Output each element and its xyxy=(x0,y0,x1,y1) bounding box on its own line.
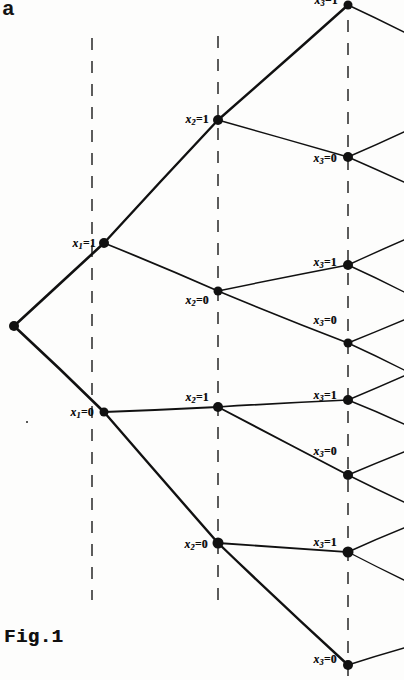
decision-tree-graphic xyxy=(0,0,404,680)
node-label-n-x3-010: x3=0 xyxy=(314,445,337,460)
leaf-stub xyxy=(348,528,404,552)
leaf-stub xyxy=(348,343,404,370)
tree-edge xyxy=(104,412,218,543)
tree-node-n-x3-111 xyxy=(344,1,353,10)
node-label-n-x2-01: x2=1 xyxy=(186,391,209,406)
tree-node-n-x2-00 xyxy=(213,538,224,549)
tree-edge xyxy=(104,243,218,291)
node-label-n-x1-0: x1=0 xyxy=(71,406,94,421)
tree-edge xyxy=(14,243,104,326)
tree-node-n-x3-011 xyxy=(343,395,353,405)
tree-node-n-x3-000 xyxy=(343,660,353,670)
node-label-n-x3-001: x3=1 xyxy=(314,536,337,551)
node-label-n-x3-101: x3=1 xyxy=(314,256,337,271)
tree-node-n-x3-001 xyxy=(343,547,354,558)
node-label-n-x1-1: x1=1 xyxy=(73,237,96,252)
leaf-stub xyxy=(348,475,404,502)
tree-node-n-x3-110 xyxy=(343,152,353,162)
node-label-n-x3-011: x3=1 xyxy=(314,389,337,404)
node-label-n-x3-111: x3=1 xyxy=(315,0,338,8)
leaf-stub xyxy=(348,265,404,292)
node-label-n-x3-110: x3=0 xyxy=(314,152,337,167)
tree-node-n-x3-101 xyxy=(343,260,353,270)
tree-edge xyxy=(218,543,348,665)
tree-nodes-group xyxy=(9,1,354,671)
leaf-stub xyxy=(348,648,404,665)
node-label-n-x2-11: x2=1 xyxy=(186,113,209,128)
leaf-stub xyxy=(348,320,404,343)
tree-edge xyxy=(104,407,218,412)
node-label-n-x3-100: x3=0 xyxy=(314,314,337,329)
leaf-stub xyxy=(348,552,404,580)
tree-edges-group xyxy=(14,5,348,665)
tree-node-n-x1-1 xyxy=(99,238,109,248)
node-label-n-x3-000: x3=0 xyxy=(314,653,337,668)
leaf-stub xyxy=(348,400,404,424)
leaf-stubs-group xyxy=(348,5,404,665)
node-label-n-x2-10: x2=0 xyxy=(186,294,209,309)
tree-node-root xyxy=(9,321,19,331)
tree-edge xyxy=(218,407,348,475)
tree-node-n-x2-10 xyxy=(214,287,223,296)
tree-edge xyxy=(14,326,104,412)
tree-edge xyxy=(218,5,348,120)
tree-edge xyxy=(104,120,218,243)
leaf-stub xyxy=(348,132,404,157)
node-label-n-x2-00: x2=0 xyxy=(185,538,208,553)
tree-node-n-x2-11 xyxy=(213,115,223,125)
leaf-stub xyxy=(348,157,404,182)
figure-caption: Fig.1 xyxy=(4,626,64,648)
tree-node-n-x2-01 xyxy=(213,402,223,412)
figure-canvas: a x1=1x1=0x2=1x2=0x2=1x2=0x3=1x3=0x3=1x3… xyxy=(0,0,404,680)
leaf-stub xyxy=(348,240,404,265)
leaf-stub xyxy=(348,376,404,400)
tree-node-n-x1-0 xyxy=(100,408,109,417)
tree-node-n-x3-010 xyxy=(343,470,353,480)
tree-node-n-x3-100 xyxy=(344,339,353,348)
leaf-stub xyxy=(348,5,404,32)
leaf-stub xyxy=(348,452,404,475)
